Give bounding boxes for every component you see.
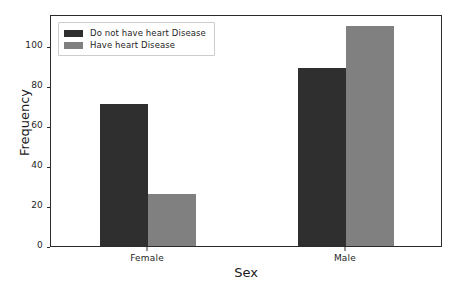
plot-axes: Do not have heart Disease Have heart Dis…	[50, 15, 442, 247]
chart-legend: Do not have heart Disease Have heart Dis…	[58, 22, 215, 56]
y-tick-label: 20	[31, 200, 43, 210]
x-tick-mark	[344, 247, 345, 251]
x-tick-label: Female	[130, 253, 164, 263]
legend-item: Do not have heart Disease	[64, 27, 206, 39]
y-tick-label: 80	[31, 80, 43, 90]
x-tick-mark	[147, 247, 148, 251]
bar-chart-figure: 020406080100 Frequency Do not have heart…	[0, 0, 457, 289]
legend-swatch-has-disease	[64, 42, 83, 49]
y-tick-label: 0	[37, 240, 43, 250]
legend-label-has-disease: Have heart Disease	[90, 40, 175, 50]
y-axis-label: Frequency	[17, 7, 32, 239]
legend-swatch-no-disease	[64, 30, 83, 37]
y-tick-label: 40	[31, 160, 43, 170]
bar-male-has-disease	[346, 26, 394, 246]
bar-female-has-disease	[148, 194, 196, 246]
y-tick-label: 60	[31, 120, 43, 130]
legend-label-no-disease: Do not have heart Disease	[90, 28, 206, 38]
legend-item: Have heart Disease	[64, 39, 206, 51]
bar-female-no-disease	[100, 104, 148, 246]
x-axis-label: Sex	[50, 265, 442, 280]
bar-male-no-disease	[298, 68, 346, 246]
x-tick-label: Male	[334, 253, 356, 263]
